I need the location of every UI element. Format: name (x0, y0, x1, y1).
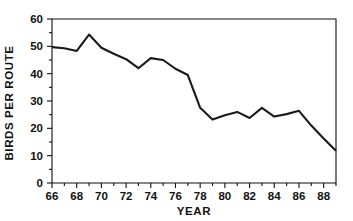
chart-container: 666870727476788082848688 0102030405060 Y… (0, 0, 353, 221)
y-tick-label: 0 (37, 177, 43, 189)
y-tick-label: 60 (30, 13, 43, 25)
x-axis-title: YEAR (177, 205, 211, 217)
x-tick-label: 88 (317, 190, 330, 202)
x-tick-label: 74 (144, 190, 157, 202)
x-tick-label: 78 (194, 190, 207, 202)
y-tick-label: 10 (30, 150, 43, 162)
y-tick-label: 40 (30, 68, 43, 80)
y-tick-label: 30 (30, 95, 43, 107)
y-tick-label: 20 (30, 122, 43, 134)
x-tick-label: 72 (120, 190, 133, 202)
x-tick-label: 86 (293, 190, 306, 202)
x-tick-label: 68 (70, 190, 83, 202)
line-chart: 666870727476788082848688 0102030405060 Y… (0, 0, 353, 221)
x-tick-label: 66 (46, 190, 59, 202)
x-tick-label: 84 (268, 190, 281, 202)
chart-background (0, 0, 353, 221)
y-tick-label: 50 (30, 40, 43, 52)
x-tick-label: 76 (169, 190, 182, 202)
x-tick-label: 70 (95, 190, 108, 202)
x-tick-label: 82 (243, 190, 256, 202)
y-axis-title: BIRDS PER ROUTE (3, 45, 15, 160)
x-tick-label: 80 (218, 190, 231, 202)
